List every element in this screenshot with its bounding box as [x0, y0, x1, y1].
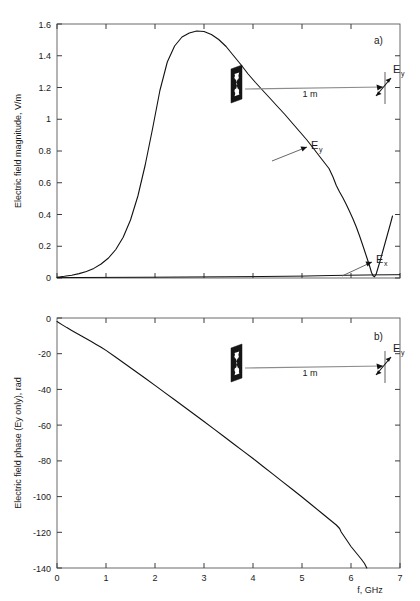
panel-a-ytick-8: 1.6: [38, 20, 51, 30]
panel-b-ytick-5: -100: [33, 492, 51, 502]
figure-root: 0 0.2 0.4 0.6 0.8 1 1.2 1.4 1.6 Electric…: [0, 0, 420, 601]
panel-a-label: a): [374, 35, 383, 46]
panel-b-ytick-1: -20: [38, 349, 51, 359]
panel-b-xtick-1: 1: [103, 573, 108, 583]
inset-b-antenna-icon: [231, 344, 242, 382]
panel-a-ytick-5: 1: [46, 114, 51, 124]
panel-a-ytick-4: 0.8: [38, 146, 51, 156]
panel-b-xtick-7: 7: [397, 573, 402, 583]
inset-a-field-label-sub: y: [401, 70, 405, 78]
panel-a-ytick-7: 1.4: [38, 51, 51, 61]
panel-a-canvas: 0 0.2 0.4 0.6 0.8 1 1.2 1.4 1.6 Electric…: [0, 0, 420, 300]
panel-a-ey-label-sub: y: [319, 146, 323, 154]
inset-a-field-label: E: [393, 63, 400, 75]
inset-b-field-label: E: [393, 342, 400, 354]
panel-b-ytick-7: -140: [33, 564, 51, 574]
inset-a-antenna-icon: [231, 65, 242, 103]
inset-b-field-label-sub: y: [401, 349, 405, 357]
panel-b-xtick-4: 4: [250, 573, 255, 583]
panel-b-x-axis-title: f, GHz: [357, 585, 383, 595]
panel-b-ytick-2: -40: [38, 385, 51, 395]
panel-b-ytick-6: -120: [33, 528, 51, 538]
inset-b-distance-label: 1 m: [302, 368, 317, 378]
panel-a-ex-label-sub: x: [384, 260, 388, 267]
panel-a-ytick-6: 1.2: [38, 83, 51, 93]
panel-b-ytick-3: -60: [38, 421, 51, 431]
panel-a-ytick-3: 0.6: [38, 178, 51, 188]
panel-a-ytick-1: 0.2: [38, 241, 51, 251]
panel-b-xtick-6: 6: [348, 573, 353, 583]
panel-a-ytick-0: 0: [46, 273, 51, 283]
panel-b-xtick-3: 3: [201, 573, 206, 583]
panel-b-xtick-5: 5: [299, 573, 304, 583]
panel-b-plot-frame: [57, 318, 400, 568]
panel-a-plot-frame: [57, 24, 400, 278]
panel-b-y-axis-title: Electric field phase (Ey only), rad: [13, 377, 23, 509]
panel-b-canvas: 0 -20 -40 -60 -80 -100 -120 -140 0 1 2 3…: [0, 300, 420, 601]
panel-a: 0 0.2 0.4 0.6 0.8 1 1.2 1.4 1.6 Electric…: [0, 0, 420, 300]
panel-b-label: b): [374, 331, 383, 342]
panel-b: 0 -20 -40 -60 -80 -100 -120 -140 0 1 2 3…: [0, 300, 420, 601]
panel-b-xtick-0: 0: [54, 573, 59, 583]
panel-a-ytick-2: 0.4: [38, 210, 51, 220]
panel-b-ytick-4: -80: [38, 456, 51, 466]
inset-a-distance-label: 1 m: [302, 89, 317, 99]
panel-a-ex-label: E: [376, 253, 383, 265]
panel-b-xtick-2: 2: [152, 573, 157, 583]
panel-b-ytick-0: 0: [46, 314, 51, 324]
panel-a-y-axis-title: Electric field magnitude, V/m: [13, 94, 23, 208]
panel-a-ey-label: E: [311, 139, 318, 151]
